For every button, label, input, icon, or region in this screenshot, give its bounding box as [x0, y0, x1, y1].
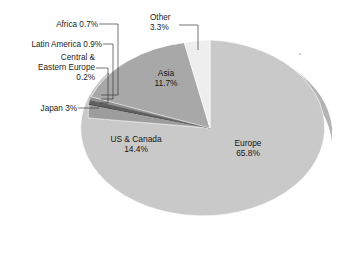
pie-top-face: [81, 40, 325, 216]
scan-speck: [299, 53, 301, 55]
label-europe-line2: 65.8%: [236, 148, 260, 158]
label-central-eastern-europe-line3: 0.2%: [76, 73, 95, 82]
label-other-line2: 3.3%: [150, 23, 169, 32]
pie-chart-figure: Africa 0.7% Latin America 0.9% Central &…: [0, 0, 346, 262]
label-europe-line1: Europe: [234, 138, 261, 148]
label-us-canada-line1: US & Canada: [110, 134, 162, 144]
label-asia-line1: Asia: [158, 68, 175, 78]
label-us-canada-line2: 14.4%: [124, 144, 148, 154]
label-asia-line2: 11.7%: [154, 78, 178, 88]
label-other-line1: Other: [150, 13, 171, 22]
label-japan: Japan 3%: [41, 104, 77, 113]
label-latin-america: Latin America 0.9%: [31, 40, 102, 49]
label-africa: Africa 0.7%: [56, 20, 98, 29]
pie-chart-page: Africa 0.7% Latin America 0.9% Central &…: [0, 0, 346, 262]
label-central-eastern-europe-line2: Eastern Europe: [38, 63, 95, 72]
label-central-eastern-europe-line1: Central &: [61, 53, 96, 62]
